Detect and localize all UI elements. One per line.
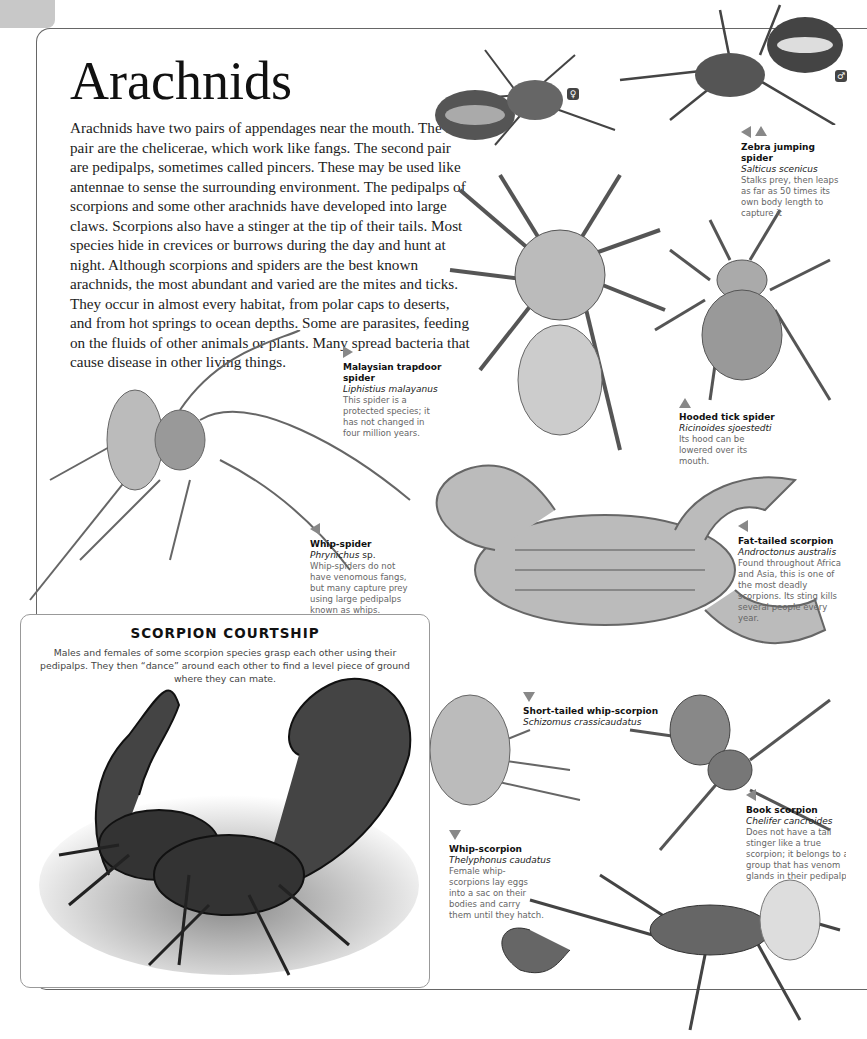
page-number-tab bbox=[0, 0, 55, 28]
caption-short-tailed-whip-scorpion: Short-tailed whip-scorpion Schizomus cra… bbox=[523, 692, 663, 728]
pointer-right-icon bbox=[343, 346, 353, 358]
page-title: Arachnids bbox=[70, 50, 292, 112]
scientific-suffix: sp. bbox=[359, 550, 375, 560]
caption-whip-spider: Whip-spider Phrynichus sp. Whip-spiders … bbox=[310, 523, 420, 616]
species-name: Whip-scorpion bbox=[449, 844, 554, 855]
species-name: Whip-spider bbox=[310, 539, 420, 550]
species-description: Does not have a tail stinger like a true… bbox=[746, 827, 846, 882]
scientific-name: Chelifer cancroides bbox=[746, 816, 846, 827]
male-marker-icon: ♂ bbox=[835, 70, 847, 82]
species-name: Book scorpion bbox=[746, 805, 846, 816]
pointer-up-icon bbox=[755, 126, 767, 136]
caption-zebra-jumping-spider: Zebra jumping spider Salticus scenicus S… bbox=[741, 126, 846, 219]
pointer-down-icon bbox=[523, 692, 535, 702]
pointer-up-icon bbox=[679, 398, 691, 408]
scientific-name: Androctonus australis bbox=[738, 547, 843, 558]
species-description: This spider is a protected species; it h… bbox=[343, 395, 443, 439]
zebra-jumping-spider-male-illustration bbox=[610, 0, 843, 125]
species-description: Female whip-scorpions lay eggs into a sa… bbox=[449, 866, 544, 921]
scientific-name: Phrynichus bbox=[310, 550, 359, 560]
species-description: Its hood can be lowered over its mouth. bbox=[679, 434, 774, 467]
scientific-name: Schizomus crassicaudatus bbox=[523, 717, 663, 728]
pointer-left-icon bbox=[310, 523, 320, 535]
species-description: Stalks prey, then leaps as far as 50 tim… bbox=[741, 175, 846, 219]
hooded-tick-spider-illustration bbox=[650, 200, 843, 410]
courtship-scorpions-illustration bbox=[29, 675, 421, 980]
pointer-left-icon bbox=[746, 789, 756, 801]
species-name: Malaysian trapdoor spider bbox=[343, 362, 463, 384]
scorpion-courtship-box: SCORPION COURTSHIP Males and females of … bbox=[20, 614, 430, 988]
species-name: Short-tailed whip-scorpion bbox=[523, 706, 663, 717]
scientific-name: Liphistius malayanus bbox=[343, 384, 463, 395]
scientific-name: Thelyphonus caudatus bbox=[449, 855, 554, 866]
malaysian-trapdoor-spider-illustration bbox=[440, 170, 670, 470]
pointer-left-icon bbox=[738, 520, 748, 532]
caption-book-scorpion: Book scorpion Chelifer cancroides Does n… bbox=[746, 789, 846, 882]
caption-malaysian-trapdoor-spider: Malaysian trapdoor spider Liphistius mal… bbox=[343, 346, 463, 439]
feature-box-heading: SCORPION COURTSHIP bbox=[21, 625, 429, 641]
caption-whip-scorpion: Whip-scorpion Thelyphonus caudatus Femal… bbox=[449, 830, 554, 921]
zebra-jumping-spider-female-illustration bbox=[425, 40, 625, 150]
pointer-down-icon bbox=[449, 830, 461, 840]
species-name: Hooded tick spider bbox=[679, 412, 779, 423]
caption-hooded-tick-spider: Hooded tick spider Ricinoides sjoestedti… bbox=[679, 398, 779, 467]
scientific-name: Salticus scenicus bbox=[741, 164, 846, 175]
scientific-name: Ricinoides sjoestedti bbox=[679, 423, 779, 434]
species-description: Found throughout Africa and Asia, this i… bbox=[738, 558, 843, 624]
caption-fat-tailed-scorpion: Fat-tailed scorpion Androctonus australi… bbox=[738, 520, 843, 624]
species-name: Fat-tailed scorpion bbox=[738, 536, 843, 547]
pointer-left-icon bbox=[741, 126, 751, 138]
species-name: Zebra jumping spider bbox=[741, 142, 846, 164]
female-marker-icon: ♀ bbox=[567, 88, 579, 100]
species-description: Whip-spiders do not have venomous fangs,… bbox=[310, 561, 415, 616]
